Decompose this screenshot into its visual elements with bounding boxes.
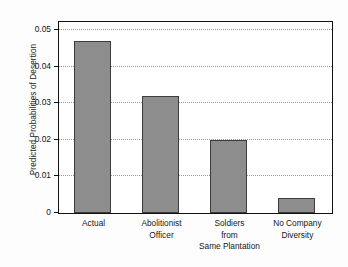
y-tick-label: 0.05 [35,24,51,34]
y-tick-mark [54,102,59,103]
y-tick-label: 0.03 [35,97,51,107]
bar [210,140,247,213]
y-tick-label: 0.01 [35,170,51,180]
y-tick-mark [54,139,59,140]
y-tick-mark [54,66,59,67]
bar [74,41,111,213]
x-tick-label: No Company Diversity [263,218,331,241]
y-tick-mark [54,212,59,213]
x-tick-label: Soldiers from Same Plantation [196,218,264,253]
x-tick-label: Actual [60,218,128,230]
x-tick-label: Abolitionist Officer [128,218,196,241]
plot-area: 00.010.020.030.040.05 [58,21,333,214]
y-tick-mark [54,29,59,30]
bar-chart-figure: Predicted Probabilities of Desertion 00.… [0,0,348,267]
y-tick-mark [54,175,59,176]
bar [278,198,315,213]
plot-inner: 00.010.020.030.040.05 [59,22,332,213]
bar [142,96,179,213]
gridline [59,29,332,30]
y-tick-label: 0 [46,207,51,217]
y-tick-label: 0.02 [35,134,51,144]
y-tick-label: 0.04 [35,61,51,71]
